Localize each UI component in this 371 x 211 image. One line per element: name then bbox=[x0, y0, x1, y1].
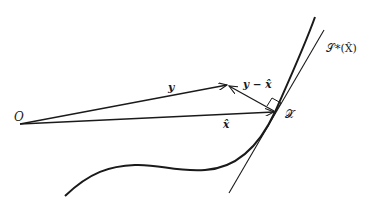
tangent-line bbox=[229, 30, 324, 193]
projection-diagram: O y y − x̂ x̂ 𝒳̂ 𝒮*(X̂) bbox=[0, 0, 371, 211]
residual-label: y − x̂ bbox=[242, 78, 272, 90]
point-xhat-label: 𝒳̂ bbox=[285, 108, 296, 121]
vector-y-arrow bbox=[20, 85, 227, 124]
vector-xhat-arrow bbox=[20, 112, 274, 124]
origin-label: O bbox=[14, 110, 24, 124]
manifold-curve bbox=[65, 17, 315, 196]
vector-y-label: y bbox=[167, 81, 176, 94]
vector-xhat-label: x̂ bbox=[222, 118, 230, 130]
tangent-space-label: 𝒮*(X̂) bbox=[326, 42, 357, 55]
